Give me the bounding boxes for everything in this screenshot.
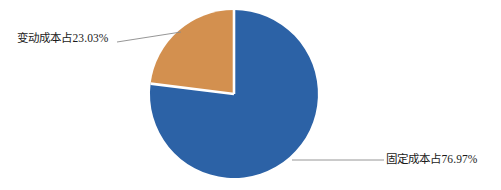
pie-slice-variable-cost[interactable] — [151, 10, 234, 94]
pie-label-fixed-cost: 固定成本占76.97% — [386, 152, 478, 166]
pie-label-variable-cost: 变动成本占23.03% — [17, 31, 109, 45]
pie-chart-figure: 变动成本占23.03% 固定成本占76.97% — [0, 0, 501, 190]
